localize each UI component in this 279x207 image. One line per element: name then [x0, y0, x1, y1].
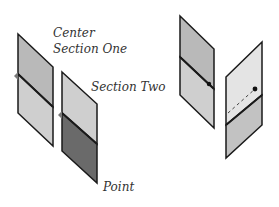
panel-c — [180, 16, 214, 128]
point-dot-icon — [253, 87, 258, 92]
label-point: Point — [102, 180, 134, 194]
point-dot-icon — [207, 82, 211, 86]
hinge-marker-icon — [14, 72, 18, 80]
label-center: Center — [53, 26, 96, 40]
diagram-canvas: Center Section One Section Two Point — [0, 0, 279, 207]
panel-section-one — [14, 34, 53, 146]
label-section-one: Section One — [53, 42, 127, 56]
hinge-marker-icon — [58, 111, 62, 119]
label-section-two: Section Two — [91, 80, 166, 94]
panel-d — [226, 42, 262, 158]
